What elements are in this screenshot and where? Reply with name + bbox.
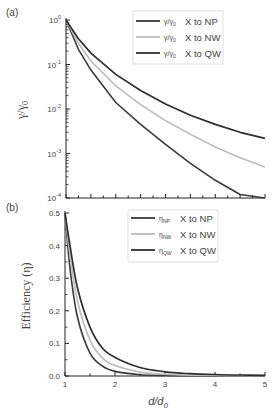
plot-a-ylabel: γ/γ0 bbox=[14, 101, 30, 120]
legend-label: X to QW bbox=[180, 245, 216, 256]
tick-label: 0.4 bbox=[49, 242, 61, 251]
tick-label: 0.2 bbox=[49, 307, 61, 316]
plot-b: 0.00.10.20.30.40.512345 Efficiency (η) d… bbox=[19, 209, 268, 410]
plot-a: 10010-110-210-310-4 γ/γ0 γ/γ0X to NPγ/γ0… bbox=[14, 11, 265, 203]
tick-label: 5 bbox=[263, 380, 268, 389]
plot-b-xlabel: d/d0 bbox=[148, 395, 168, 410]
legend-label: X to NW bbox=[180, 229, 215, 240]
plot-b-ylabel: Efficiency (η) bbox=[19, 262, 33, 329]
tick-label: 0.3 bbox=[49, 274, 61, 283]
tick-label: 100 bbox=[49, 14, 61, 25]
tick-label: 2 bbox=[113, 380, 118, 389]
tick-label: 1 bbox=[63, 380, 68, 389]
tick-label: 10-1 bbox=[47, 59, 61, 70]
plot-b-legend: ηNPX to NPηNWX to NWηQWX to QW bbox=[128, 210, 218, 262]
svg-text:Efficiency (η): Efficiency (η) bbox=[19, 262, 33, 329]
figure: (a) (b) 10010-110-210-310-4 γ/γ0 γ/γ0X t… bbox=[0, 0, 276, 420]
legend-label: X to NW bbox=[185, 32, 220, 43]
plot-a-legend: γ/γ0X to NPγ/γ0X to NWγ/γ0X to QW bbox=[133, 11, 223, 64]
tick-label: 10-2 bbox=[47, 103, 61, 114]
tick-label: 0.5 bbox=[49, 209, 61, 218]
tick-label: 3 bbox=[163, 380, 168, 389]
tick-label: 0.1 bbox=[49, 339, 61, 348]
legend-label: X to NP bbox=[185, 16, 218, 27]
legend-label: X to NP bbox=[180, 213, 213, 224]
legend-label: X to QW bbox=[185, 48, 221, 59]
tick-label: 4 bbox=[213, 380, 218, 389]
tick-label: 10-3 bbox=[47, 148, 61, 159]
tick-label: 10-4 bbox=[47, 192, 61, 203]
panel-label-a: (a) bbox=[6, 7, 18, 18]
panel-label-b: (b) bbox=[6, 202, 18, 213]
tick-label: 0.0 bbox=[49, 372, 61, 381]
svg-text:γ/γ0: γ/γ0 bbox=[14, 101, 30, 120]
